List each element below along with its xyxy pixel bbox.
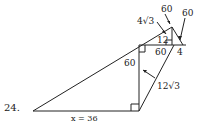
label-4root3: 4√3 [137,16,154,26]
arrowhead-icon [167,21,170,24]
label-12: 12 [157,35,168,45]
label-12root3: 12√3 [157,81,180,91]
label-60-top-b: 60 [182,8,194,18]
label-4: 4 [177,47,183,57]
hypotenuse-line [33,27,172,111]
label-60-top-a: 60 [161,4,173,14]
label-60-base: 60 [155,47,167,57]
label-60-vertical: 60 [124,58,136,68]
label-x-36: x = 36 [71,114,97,123]
geometry-diagram: 24. 60 60 4√3 12 60 4 60 12√3 x = 36 [0,0,203,132]
right-angle-mark-bottom [131,104,139,111]
problem-number: 24. [4,102,20,113]
